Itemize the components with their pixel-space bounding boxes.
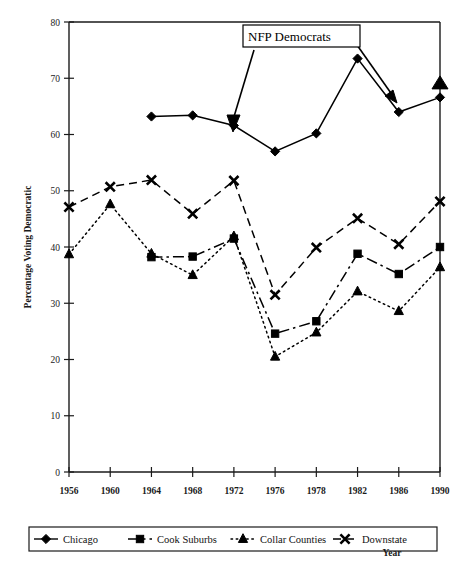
chart-legend: ChicagoCook SuburbsCollar CountiesDownst…: [29, 527, 437, 551]
legend-label: Downstate: [362, 534, 407, 545]
x-tick-label: 1982: [348, 486, 367, 496]
data-point-cross-marker: [229, 176, 238, 185]
annotation-arrow-left: [233, 50, 254, 120]
legend-swatch-diamond-marker: [41, 534, 50, 543]
x-tick-label: 1990: [431, 486, 450, 496]
legend-swatch-square-marker: [136, 535, 143, 542]
nfp-democrats-annotation: NFP Democrats: [227, 25, 397, 132]
data-point-cross-stroke: [271, 290, 280, 299]
data-point-triangle-marker: [106, 199, 115, 208]
data-point-cross-marker: [188, 209, 197, 218]
x-tick-label: 1960: [101, 486, 120, 496]
data-point-cross-marker: [271, 290, 280, 299]
data-point-triangle-marker: [435, 262, 444, 271]
legend-item-downstate[interactable]: Downstate: [333, 534, 407, 545]
data-point-cross-stroke: [394, 240, 403, 249]
line-chart-svg: 01020304050607080 1956196019641968197219…: [0, 0, 466, 561]
y-tick-label: 10: [51, 411, 61, 421]
x-tick-label: 1976: [266, 486, 285, 496]
data-point-cross-stroke: [353, 214, 362, 223]
data-point-cross-stroke: [312, 243, 321, 252]
x-tick-label: 1956: [60, 486, 79, 496]
data-point-cross-marker: [106, 182, 115, 191]
data-point-square-marker: [313, 318, 320, 325]
series-downstate: [64, 175, 444, 299]
legend-item-chicago[interactable]: Chicago: [34, 534, 98, 545]
annotation-arrowhead-left: [227, 115, 240, 132]
data-point-square-marker: [354, 250, 361, 257]
data-point-square-marker: [436, 243, 443, 250]
legend-item-collar-counties[interactable]: Collar Counties: [231, 534, 326, 545]
annotation-arrow-right: [357, 45, 393, 96]
y-tick-label: 0: [55, 468, 60, 478]
legend-swatch-triangle-marker: [238, 534, 247, 543]
legend-item-cook-suburbs[interactable]: Cook Suburbs: [128, 534, 217, 545]
series-line: [69, 180, 440, 295]
data-point-cross-marker: [312, 243, 321, 252]
series-chicago: [147, 54, 445, 156]
data-point-cross-marker: [353, 214, 362, 223]
series-line: [151, 59, 440, 152]
x-tick-label: 1978: [307, 486, 326, 496]
y-tick-group: 01020304050607080: [51, 18, 75, 478]
x-tick-label: 1964: [142, 486, 161, 496]
legend-label: Chicago: [63, 534, 98, 545]
data-point-diamond-marker: [435, 93, 444, 102]
data-point-cross-stroke: [188, 209, 197, 218]
data-point-cross-stroke: [106, 182, 115, 191]
x-tick-label: 1986: [389, 486, 408, 496]
series-line: [69, 204, 440, 356]
y-axis-label: Percentage Voting Democratic: [23, 186, 33, 309]
series-layer: [64, 54, 448, 360]
y-tick-label: 20: [51, 355, 61, 365]
x-tick-label: 1972: [224, 486, 243, 496]
series-collar-counties: [64, 199, 444, 360]
data-point-triangle-marker: [353, 286, 362, 295]
y-tick-label: 70: [51, 74, 61, 84]
data-point-square-marker: [395, 270, 402, 277]
y-tick-label: 40: [51, 243, 61, 253]
data-point-cross-marker: [394, 240, 403, 249]
series-cook-suburbs: [148, 235, 444, 337]
data-point-triangle-marker: [271, 351, 280, 360]
data-point-square-marker: [189, 253, 196, 260]
x-axis-label: Year: [383, 548, 403, 558]
data-point-cross-stroke: [229, 176, 238, 185]
data-point-square-marker: [271, 330, 278, 337]
legend-label: Cook Suburbs: [157, 534, 217, 545]
chart-figure: 01020304050607080 1956196019641968197219…: [0, 0, 466, 561]
x-tick-label: 1968: [183, 486, 202, 496]
annotation-label: NFP Democrats: [248, 29, 331, 44]
data-point-diamond-marker: [147, 112, 156, 121]
y-tick-label: 30: [51, 299, 61, 309]
plot-axes: [69, 22, 440, 472]
y-tick-label: 50: [51, 186, 61, 196]
legend-label: Collar Counties: [260, 534, 326, 545]
data-point-diamond-marker: [312, 129, 321, 138]
annotated-collar-counties-point: [432, 76, 448, 89]
data-point-diamond-marker: [271, 147, 280, 156]
data-point-diamond-marker: [188, 111, 197, 120]
legend-items: ChicagoCook SuburbsCollar CountiesDownst…: [34, 534, 407, 545]
y-tick-label: 80: [51, 18, 61, 28]
y-tick-label: 60: [51, 130, 61, 140]
